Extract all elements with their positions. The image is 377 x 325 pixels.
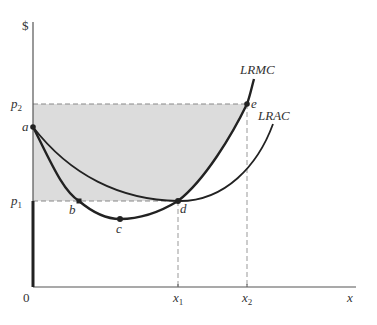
p2-label: p2 — [10, 96, 22, 113]
point-a-marker — [30, 124, 36, 130]
point-b-marker — [77, 199, 82, 204]
x-axis-label: x — [346, 290, 353, 305]
point-b-label: b — [69, 202, 76, 217]
point-d-label: d — [180, 201, 187, 216]
y-axis-label: $ — [22, 18, 29, 33]
lrmc-label: LRMC — [239, 62, 275, 77]
cost-curves-diagram: $ x 0 p2 p1 x1 x2 LRMC LRAC a b c d e — [0, 0, 377, 325]
diagram-canvas: $ x 0 p2 p1 x1 x2 LRMC LRAC a b c d e — [0, 0, 377, 325]
lrac-label: LRAC — [257, 108, 290, 123]
point-a-label: a — [22, 119, 29, 134]
origin-label: 0 — [23, 290, 30, 305]
x2-label: x2 — [241, 290, 252, 307]
x1-label: x1 — [172, 290, 183, 307]
point-e-label: e — [251, 96, 257, 111]
point-c-label: c — [116, 221, 122, 236]
p1-label: p1 — [10, 193, 22, 210]
point-e-marker — [244, 101, 250, 107]
